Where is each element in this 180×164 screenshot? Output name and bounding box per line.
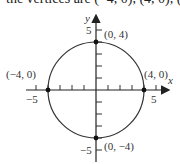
x-axis-label: x	[167, 74, 173, 86]
point-top-label: (0, 4)	[104, 28, 128, 41]
circle-plot: y x (0, 4) (−4, 0) (4, 0) (0, −4) −5 5 5…	[0, 0, 180, 164]
y-axis-label: y	[84, 12, 90, 24]
y-tick-label-neg5: −5	[80, 144, 92, 156]
x-tick-label-neg5: −5	[26, 93, 38, 105]
point-right-label: (4, 0)	[144, 68, 168, 81]
point-right	[142, 88, 147, 93]
point-bottom-label: (0, −4)	[104, 140, 134, 153]
point-left-label: (−4, 0)	[6, 68, 36, 81]
x-tick-label-pos5: 5	[151, 93, 157, 105]
point-bottom	[94, 136, 99, 141]
point-top	[94, 40, 99, 45]
y-tick-label-pos5: 5	[86, 24, 92, 36]
point-left	[46, 88, 51, 93]
